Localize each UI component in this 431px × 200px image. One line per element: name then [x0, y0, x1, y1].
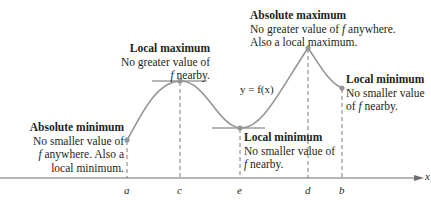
label-absolute-minimum: Absolute minimum No smaller value of f a… [10, 121, 124, 175]
label-absolute-maximum: Absolute maximum No greater value of f a… [250, 9, 430, 50]
label-text: of [346, 100, 358, 112]
tick-a: a [124, 184, 130, 196]
x-axis-label: x [425, 170, 430, 182]
label-text: anywhere. [345, 23, 395, 35]
label-title: Absolute minimum [10, 121, 124, 135]
label-text: No smaller value of [244, 145, 335, 157]
label-text: No smaller value of [33, 135, 124, 147]
label-text: anywhere. Also a [42, 148, 124, 160]
label-text: No smaller value [346, 87, 425, 99]
label-local-minimum-e: Local minimum No smaller value of f near… [244, 131, 364, 172]
label-title: Local maximum [100, 42, 210, 56]
label-text: No greater value of [250, 23, 342, 35]
tick-c: c [177, 184, 182, 196]
tick-e: e [237, 184, 242, 196]
label-local-minimum-b: Local minimum No smaller value of f near… [346, 73, 431, 114]
curve-label: y = f(x) [240, 83, 274, 97]
label-text: nearby. [362, 100, 398, 112]
label-text: nearby. [174, 69, 210, 81]
curve-equation: y = f(x) [240, 83, 274, 95]
tick-b: b [339, 184, 345, 196]
tick-d: d [305, 184, 311, 196]
label-title: Local minimum [346, 73, 431, 87]
label-title: Local minimum [244, 131, 364, 145]
label-local-maximum: Local maximum No greater value of f near… [100, 42, 210, 83]
x-axis-arrow-icon [414, 175, 424, 181]
label-text: No greater value of [121, 56, 210, 68]
label-text: Also a local maximum. [250, 36, 357, 48]
label-text: nearby. [247, 158, 283, 170]
label-title: Absolute maximum [250, 9, 430, 23]
label-text: local minimum. [51, 162, 124, 174]
